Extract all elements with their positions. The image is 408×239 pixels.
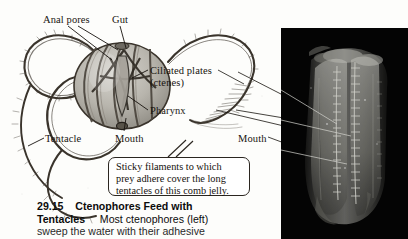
sticky-filaments-callout: Sticky filaments to which prey adhere co… [108, 157, 250, 196]
label-pharynx: Pharynx [150, 105, 186, 116]
callout-line-2: prey adhere cover the long [116, 173, 243, 185]
label-tentacle: Tentacle [45, 133, 81, 144]
caption-title-part2: Tentacles [37, 213, 85, 225]
callout-line-1: Sticky filaments to which [116, 161, 243, 173]
caption-body-line3: sweep the water with their adhesive [37, 225, 205, 237]
label-ctenes: (ctenes) [150, 77, 184, 88]
caption-line-1: 29.15 Ctenophores Feed with [37, 200, 259, 213]
caption-line-2: Tentacles Most ctenophores (left) [37, 213, 259, 226]
figure-root: Anal pores Gut Ciliated plates (ctenes) … [0, 0, 408, 239]
label-mouth-photo: Mouth [238, 133, 267, 144]
label-mouth-diagram: Mouth [115, 133, 144, 144]
photo-content [281, 28, 408, 239]
caption-number: 29.15 [37, 200, 64, 212]
callout-line-3: tentacles of this comb jelly. [116, 185, 243, 197]
caption-body-line2: Most ctenophores (left) [100, 213, 208, 225]
label-ciliated-plates: Ciliated plates [150, 65, 212, 76]
callout-pointer [168, 140, 193, 157]
ctenophore-photograph [281, 28, 408, 239]
label-gut: Gut [112, 14, 128, 25]
caption-title-part1: Ctenophores Feed with [75, 200, 192, 212]
figure-caption: 29.15 Ctenophores Feed with Tentacles Mo… [37, 200, 259, 238]
label-anal-pores: Anal pores [43, 14, 90, 25]
caption-line-3: sweep the water with their adhesive [37, 225, 259, 238]
